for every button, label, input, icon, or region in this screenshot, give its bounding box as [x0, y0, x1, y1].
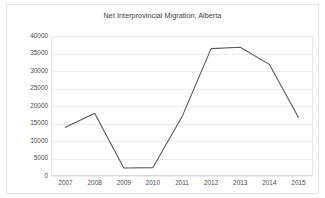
y-axis: 0500010000150002000025000300003500040000: [15, 36, 48, 176]
y-axis-tick-label: 20000: [30, 103, 48, 109]
y-axis-tick-label: 25000: [30, 85, 48, 91]
plot-area: [51, 36, 313, 176]
x-axis-tick-label: 2007: [58, 180, 72, 186]
x-axis: 200720082009201020112012201320142015: [51, 180, 313, 192]
x-axis-tick-label: 2012: [204, 180, 218, 186]
x-axis-tick-label: 2009: [117, 180, 131, 186]
x-axis-tick-label: 2014: [262, 180, 276, 186]
x-axis-tick-label: 2015: [291, 180, 305, 186]
gridline: [51, 176, 313, 177]
chart-frame: Net Interprovincial Migration, Alberta 0…: [6, 4, 319, 194]
chart-container: Net Interprovincial Migration, Alberta 0…: [0, 0, 325, 198]
y-axis-tick-label: 15000: [30, 120, 48, 126]
y-axis-tick-label: 35000: [30, 50, 48, 56]
y-axis-tick-label: 10000: [30, 138, 48, 144]
series-line-layer: [51, 36, 313, 176]
x-axis-tick-label: 2008: [88, 180, 102, 186]
x-axis-tick-label: 2010: [146, 180, 160, 186]
chart-title: Net Interprovincial Migration, Alberta: [7, 11, 318, 20]
x-axis-tick-label: 2011: [175, 180, 189, 186]
y-axis-tick-label: 30000: [30, 68, 48, 74]
x-axis-tick-label: 2013: [233, 180, 247, 186]
y-axis-tick-label: 0: [44, 173, 48, 179]
y-axis-tick-label: 5000: [34, 155, 48, 161]
series-line: [66, 47, 299, 168]
y-axis-tick-label: 40000: [30, 33, 48, 39]
